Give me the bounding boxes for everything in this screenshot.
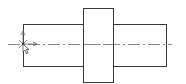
right-shaft-segment[interactable] [114, 25, 167, 67]
collar[interactable] [84, 9, 114, 83]
drawing-canvas[interactable] [0, 0, 186, 84]
ucs-origin-icon [19, 31, 37, 48]
left-shaft-segment[interactable] [24, 25, 84, 67]
